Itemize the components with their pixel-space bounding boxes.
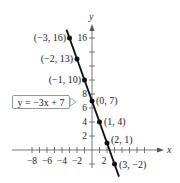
point-label: (1, 4): [104, 116, 126, 128]
x-tick-label: −4: [57, 156, 67, 166]
y-tick-label: 6: [82, 103, 87, 113]
y-tick-label: 8: [82, 89, 87, 99]
point-label: (−1, 10): [49, 74, 81, 86]
x-tick-label: −8: [27, 156, 37, 166]
y-tick-label: 16: [78, 33, 88, 43]
equation-label: y = −3x + 7: [12, 95, 70, 109]
x-tick-label: −2: [72, 156, 82, 166]
y-tick-label: 2: [82, 131, 87, 141]
point-marker: [75, 57, 80, 62]
point-label: (−2, 13): [41, 53, 73, 65]
point-marker: [90, 99, 95, 104]
point-label: (−3, 16): [34, 32, 66, 44]
y-axis-label: y: [88, 11, 94, 22]
point-label: (3, −2): [119, 159, 146, 171]
point-label: (2, 1): [111, 134, 133, 146]
point-marker: [112, 162, 117, 167]
x-axis-label: x: [166, 144, 172, 155]
point-marker: [82, 78, 87, 83]
point-marker: [67, 36, 72, 41]
y-axis: 16 8 6 4 2 y: [78, 11, 96, 168]
y-tick-label: 4: [82, 117, 87, 127]
point-marker: [105, 141, 110, 146]
coordinate-plane: −8 −6 −4 −2 2 x 16 8 6 4 2 y: [0, 0, 180, 183]
x-tick-label: 2: [102, 156, 107, 166]
point-label: (0, 7): [96, 95, 118, 107]
x-tick-label: −6: [42, 156, 52, 166]
point-marker: [97, 120, 102, 125]
